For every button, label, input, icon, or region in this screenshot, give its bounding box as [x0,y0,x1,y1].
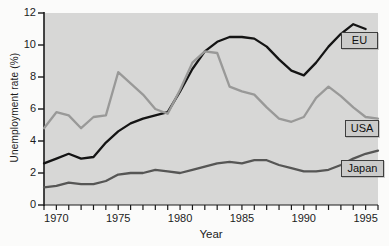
series-label-box-japan: Japan [341,160,384,177]
x-tick-label: 1995 [349,212,383,224]
series-line-eu [44,24,366,163]
chart-canvas [0,0,389,246]
series-label-japan: Japan [342,161,383,176]
y-tick-label: 2 [10,166,36,178]
x-tick-label: 1990 [287,212,321,224]
unemployment-line-chart: Unemployment rate (%) Year 024681012 197… [0,0,389,246]
x-tick-label: 1975 [101,212,135,224]
y-tick-label: 6 [10,102,36,114]
y-tick-label: 4 [10,134,36,146]
series-label-usa: USA [346,121,378,136]
series-label-box-eu: EU [341,32,378,49]
series-label-box-usa: USA [345,120,379,137]
y-tick-label: 10 [10,38,36,50]
series-line-usa [44,51,378,128]
x-tick-label: 1970 [39,212,73,224]
x-tick-label: 1985 [225,212,259,224]
y-tick-label: 8 [10,70,36,82]
y-tick-label: 12 [10,6,36,18]
x-tick-label: 1980 [163,212,197,224]
series-label-eu: EU [342,33,377,48]
y-tick-label: 0 [10,198,36,210]
x-axis-title: Year [44,228,378,240]
